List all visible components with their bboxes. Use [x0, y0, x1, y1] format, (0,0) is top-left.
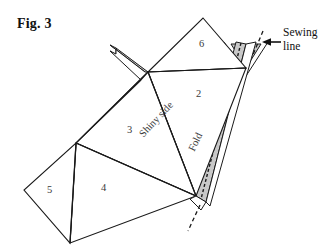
sewing-line-callout-line1: Sewing	[283, 26, 318, 40]
region-label-3: 3	[127, 124, 132, 135]
region-label-2: 2	[196, 88, 201, 99]
region-label-4: 4	[101, 182, 106, 193]
page-title: Fig. 3	[17, 16, 52, 32]
figure-container: Fig. 3 Sewing line Shiny side Fold 2 3 4…	[0, 0, 336, 251]
sewing-line-callout-line2: line	[283, 40, 318, 54]
pattern-outline	[24, 18, 246, 243]
sewing-line-callout: Sewing line	[283, 26, 318, 53]
sewing-line-extension-bottom	[188, 205, 200, 231]
seam-allowance-left-fold-tip	[110, 45, 148, 80]
region-label-5: 5	[47, 184, 52, 195]
region-label-6: 6	[199, 38, 204, 49]
arrow-left-icon	[262, 38, 281, 46]
